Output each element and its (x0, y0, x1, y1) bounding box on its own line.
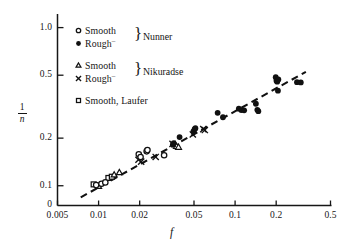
series-open-circle (93, 147, 166, 187)
data-point-filled-circle (255, 108, 261, 114)
legend-brace: } (134, 60, 142, 77)
data-point-open-circle (145, 147, 150, 152)
x-tick-label: 0.5 (309, 210, 343, 220)
data-point-open-circle (76, 28, 80, 32)
legend-marker-open-triangle (72, 59, 85, 72)
legend-marker-open-circle (72, 24, 85, 37)
chart-legend: SmoothRough–}NunnerSmoothRough–}Nikurads… (72, 24, 242, 107)
x-tick-label: 0.005 (36, 210, 80, 220)
y-axis-denominator: n (11, 115, 33, 124)
data-point-filled-circle (76, 41, 81, 46)
data-point-open-circle (138, 154, 143, 159)
data-point-filled-circle (298, 80, 304, 86)
data-point-filled-circle (253, 101, 259, 107)
data-point-filled-circle (177, 134, 183, 140)
data-point-open-circle (93, 182, 98, 187)
data-point-filled-circle (193, 125, 199, 131)
data-point-open-circle (161, 153, 166, 158)
legend-group-nikuradse: SmoothRough–}Nikuradse (72, 59, 242, 85)
data-point-filled-circle (220, 114, 226, 120)
data-point-open-square (76, 98, 80, 102)
legend-group-laufer: Smooth, Laufer (72, 94, 242, 107)
y-tick-label: 0.5 (18, 69, 52, 79)
data-point-filled-circle (215, 110, 221, 116)
legend-spacer (72, 50, 242, 59)
legend-marker-cross (72, 72, 85, 85)
legend-label: Smooth (85, 60, 116, 71)
data-point-filled-circle (275, 77, 281, 83)
y-tick-label: 1.0 (18, 22, 52, 32)
legend-spacer (72, 85, 242, 94)
y-axis-numerator: 1 (11, 103, 33, 112)
legend-label: Rough– (85, 72, 115, 84)
data-point-filled-circle (275, 88, 281, 94)
chart-figure: 1 n f 1.00.50.20.10 0.0050.010.020.050.1… (0, 0, 343, 245)
y-tick-label: 0.1 (18, 180, 52, 190)
x-axis-title: f (0, 226, 343, 238)
legend-marker-filled-circle (72, 37, 85, 50)
legend-label: Smooth (85, 25, 116, 36)
x-tick-label: 0.05 (172, 210, 216, 220)
legend-label: Rough– (85, 37, 115, 49)
data-point-filled-circle (171, 140, 177, 146)
x-tick-label: 0.2 (254, 210, 298, 220)
y-axis-origin-label: 0 (18, 199, 52, 209)
x-tick-label: 0.1 (213, 210, 257, 220)
legend-brace: } (134, 25, 142, 42)
x-tick-label: 0.02 (118, 210, 162, 220)
data-point-open-triangle (76, 63, 81, 67)
data-point-open-circle (103, 180, 108, 185)
legend-label-superscript: – (112, 37, 116, 45)
legend-marker-open-square (72, 94, 85, 107)
legend-label: Smooth, Laufer (85, 95, 148, 106)
legend-group-nunner: SmoothRough–}Nunner (72, 24, 242, 50)
y-tick-label: 0.2 (18, 132, 52, 142)
data-point-open-triangle (116, 169, 122, 174)
legend-group-label: Nunner (143, 31, 172, 42)
x-tick-label: 0.01 (77, 210, 121, 220)
legend-label-superscript: – (112, 72, 116, 80)
y-axis-title: 1 n (11, 103, 33, 124)
data-point-cross (76, 76, 81, 81)
legend-group-label: Nikuradse (143, 66, 183, 77)
data-point-filled-circle (241, 107, 247, 113)
legend-row: Smooth, Laufer (72, 94, 242, 107)
